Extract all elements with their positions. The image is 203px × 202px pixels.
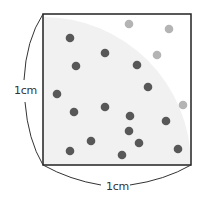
inside-point-dot — [174, 145, 183, 154]
inside-point-dot — [118, 151, 127, 160]
bottom-side-label: 1cm — [106, 180, 129, 193]
outside-point-dot — [153, 51, 162, 60]
inside-point-dot — [66, 34, 75, 43]
left-brace-curve-top — [24, 14, 43, 80]
left-side-label: 1cm — [14, 84, 37, 97]
outside-point-dot — [179, 101, 188, 110]
inside-point-dot — [133, 61, 142, 70]
inside-point-dot — [162, 117, 171, 126]
bottom-brace-curve-right — [130, 165, 191, 185]
inside-point-dot — [72, 62, 81, 71]
outside-point-dot — [125, 20, 134, 29]
inside-point-dot — [125, 127, 134, 136]
diagram-canvas — [0, 0, 203, 202]
inside-point-dot — [101, 49, 110, 58]
inside-point-dot — [144, 83, 153, 92]
inside-point-dot — [87, 137, 96, 146]
inside-point-dot — [126, 112, 135, 121]
inside-point-dot — [70, 108, 79, 117]
inside-point-dot — [101, 103, 110, 112]
bottom-brace-curve-left — [43, 165, 101, 185]
outside-point-dot — [165, 25, 174, 34]
inside-point-dot — [135, 139, 144, 148]
inside-point-dot — [53, 90, 62, 99]
left-brace-curve-bottom — [25, 102, 43, 165]
inside-point-dot — [66, 147, 75, 156]
